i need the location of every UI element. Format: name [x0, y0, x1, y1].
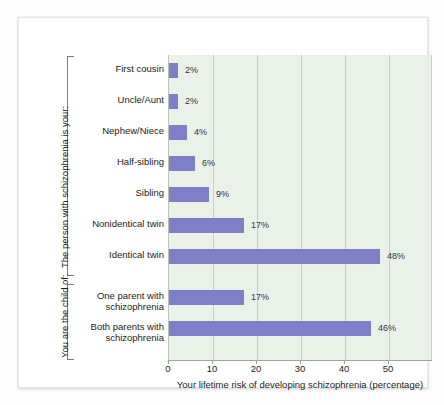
- category-label-uncle-aunt: Uncle/Aunt: [72, 95, 164, 106]
- gridline-50: [389, 55, 390, 360]
- x-tick-label-10: 10: [207, 363, 218, 374]
- plot-right-edge: [431, 55, 432, 360]
- bar-nonidentical-twin: [169, 218, 244, 233]
- value-label-both-parents: 46%: [378, 321, 396, 336]
- figure-canvas: The person with schizophrenia is your: Y…: [0, 0, 444, 405]
- bar-first-cousin: [169, 63, 178, 78]
- category-label-identical-twin: Identical twin: [72, 250, 164, 261]
- value-label-sibling: 9%: [216, 187, 229, 202]
- category-label-first-cousin: First cousin: [72, 64, 164, 75]
- value-label-nephew-niece: 4%: [194, 125, 207, 140]
- bar-both-parents: [169, 321, 371, 336]
- group-title-0: The person with schizophrenia is your:: [59, 106, 70, 268]
- gridline-30: [301, 55, 302, 360]
- x-tick-label-30: 30: [295, 363, 306, 374]
- bar-half-sibling: [169, 156, 195, 171]
- plot-area: [168, 55, 432, 360]
- value-label-identical-twin: 48%: [387, 249, 405, 264]
- gridline-40: [345, 55, 346, 360]
- bar-nephew-niece: [169, 125, 187, 140]
- bar-identical-twin: [169, 249, 380, 264]
- bar-uncle-aunt: [169, 94, 178, 109]
- category-label-nephew-niece: Nephew/Niece: [72, 126, 164, 137]
- category-axis-labels: First cousin Uncle/Aunt Nephew/Niece Hal…: [72, 18, 164, 389]
- x-tick-label-40: 40: [339, 363, 350, 374]
- value-label-nonidentical-twin: 17%: [251, 218, 269, 233]
- category-label-sibling: Sibling: [72, 188, 164, 199]
- category-label-both-parents: Both parents with schizophrenia: [72, 322, 164, 343]
- value-label-one-parent: 17%: [251, 290, 269, 305]
- category-label-half-sibling: Half-sibling: [72, 157, 164, 168]
- x-tick-label-20: 20: [251, 363, 262, 374]
- value-label-first-cousin: 2%: [185, 63, 198, 78]
- x-tick-label-0: 0: [165, 363, 170, 374]
- chart-card: The person with schizophrenia is your: Y…: [18, 17, 428, 388]
- value-label-uncle-aunt: 2%: [185, 94, 198, 109]
- value-label-half-sibling: 6%: [202, 156, 215, 171]
- bar-one-parent: [169, 290, 244, 305]
- x-tick-label-50: 50: [383, 363, 394, 374]
- bar-sibling: [169, 187, 209, 202]
- category-label-one-parent: One parent with schizophrenia: [72, 291, 164, 312]
- gridline-10: [213, 55, 214, 360]
- group-title-1: You are the child of:: [59, 274, 70, 358]
- category-label-nonidentical-twin: Nonidentical twin: [72, 219, 164, 230]
- x-axis-title: Your lifetime risk of developing schizop…: [168, 379, 432, 390]
- gridline-20: [257, 55, 258, 360]
